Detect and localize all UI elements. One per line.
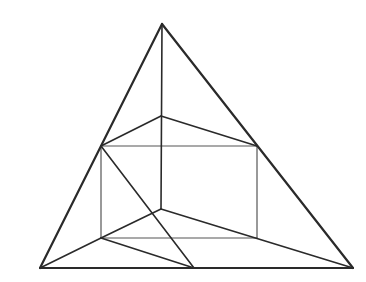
- segment-base-left-slope: [40, 238, 101, 268]
- triangle-wireframe-diagram: [0, 0, 366, 282]
- segment-upper-left-slope: [101, 116, 161, 146]
- segment-diagonal: [101, 146, 194, 268]
- segment-base-to-mid: [101, 238, 194, 268]
- diagram-segments: [40, 24, 353, 268]
- segment-upper-right-slope: [161, 116, 257, 146]
- diagram-canvas: [0, 0, 366, 282]
